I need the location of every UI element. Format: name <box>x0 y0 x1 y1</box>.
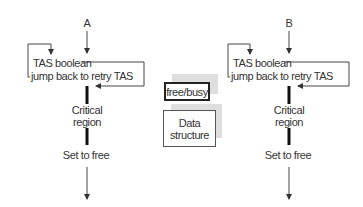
critical-label-b: Critical <box>274 104 304 116</box>
free-busy-label: free/busy <box>166 86 208 98</box>
free-busy-flag-box: free/busy <box>164 82 210 101</box>
region-label-b: region <box>275 116 303 128</box>
set-free-label-b: Set to free <box>265 149 311 161</box>
data-label: Data <box>179 117 201 129</box>
flow-bar-a-1 <box>86 86 89 104</box>
process-b-label: B <box>286 17 293 29</box>
set-free-label-a: Set to free <box>63 149 109 161</box>
process-a-label: A <box>84 17 91 29</box>
critical-label-a: Critical <box>72 104 102 116</box>
jump-instruction-b: jump back to retry TAS <box>231 70 333 82</box>
tas-instruction-a: TAS boolean <box>33 57 91 69</box>
flow-bar-b-2 <box>288 128 291 145</box>
data-structure-box: Data structure <box>163 110 216 147</box>
tas-lock-diagram: A TAS boolean jump back to retry TAS Cri… <box>0 0 363 207</box>
structure-label: structure <box>170 129 209 141</box>
region-label-a: region <box>73 116 101 128</box>
flow-bar-a-2 <box>86 128 89 145</box>
flow-bar-b-1 <box>288 86 291 104</box>
jump-instruction-a: jump back to retry TAS <box>31 70 133 82</box>
tas-instruction-b: TAS boolean <box>233 57 291 69</box>
